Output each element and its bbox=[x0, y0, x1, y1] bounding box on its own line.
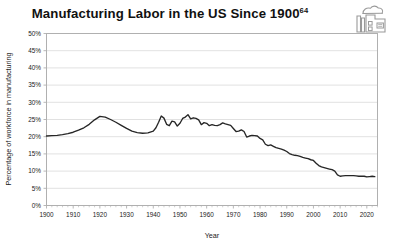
x-tick-label: 1980 bbox=[253, 211, 268, 218]
x-tick-label: 1950 bbox=[173, 211, 188, 218]
x-tick-label: 1960 bbox=[200, 211, 215, 218]
y-tick-label: 0% bbox=[32, 202, 42, 209]
x-tick-label: 1910 bbox=[66, 211, 81, 218]
y-axis-label: Percentage of workforce in manufacturing bbox=[4, 52, 13, 185]
y-tick-label: 15% bbox=[28, 150, 41, 157]
x-axis-ticks: 1900191019201930194019501960197019801990… bbox=[39, 206, 377, 219]
y-tick-label: 5% bbox=[32, 185, 42, 192]
x-tick-label: 1920 bbox=[93, 211, 108, 218]
x-axis-label: Year bbox=[205, 231, 220, 240]
line-chart: 0%5%10%15%20%25%30%35%40%45%50% 19001910… bbox=[0, 0, 393, 243]
y-tick-label: 45% bbox=[28, 47, 41, 54]
x-tick-label: 2020 bbox=[360, 211, 375, 218]
y-tick-label: 25% bbox=[28, 116, 41, 123]
y-tick-label: 30% bbox=[28, 99, 41, 106]
y-tick-label: 40% bbox=[28, 64, 41, 71]
y-axis-ticks: 0%5%10%15%20%25%30%35%40%45%50% bbox=[28, 30, 46, 209]
y-tick-label: 20% bbox=[28, 133, 41, 140]
y-tick-label: 35% bbox=[28, 81, 41, 88]
x-tick-label: 1940 bbox=[146, 211, 161, 218]
x-tick-label: 1970 bbox=[226, 211, 241, 218]
x-tick-label: 2010 bbox=[333, 211, 348, 218]
data-series-line bbox=[47, 115, 375, 177]
x-tick-label: 1990 bbox=[280, 211, 295, 218]
x-tick-label: 1900 bbox=[39, 211, 54, 218]
y-tick-label: 10% bbox=[28, 167, 41, 174]
y-tick-label: 50% bbox=[28, 30, 41, 37]
x-tick-label: 2000 bbox=[306, 211, 321, 218]
x-tick-label: 1930 bbox=[119, 211, 134, 218]
chart-figure: Manufacturing Labor in the US Since 1900… bbox=[0, 0, 393, 243]
